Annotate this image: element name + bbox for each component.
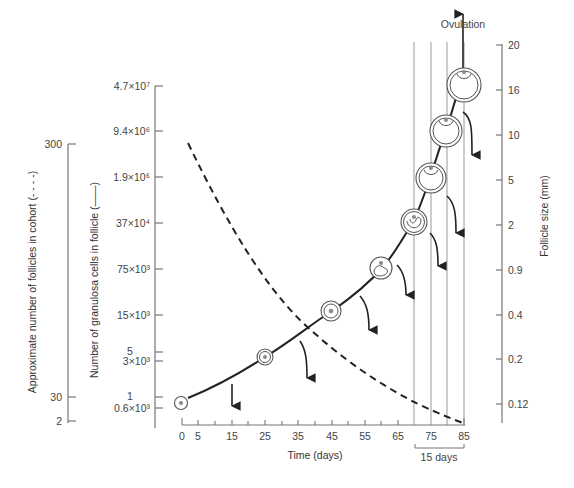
time-tick: 85: [458, 430, 470, 442]
size-tick: 0.2: [508, 353, 523, 365]
early-antral-follicle-icon: [370, 257, 392, 279]
time-tick: 75: [425, 430, 437, 442]
granulosa-tick: 1.9×10⁶: [113, 171, 150, 183]
time-tick: 5: [195, 430, 201, 442]
cohort-tick-30: 30: [50, 391, 62, 403]
granulosa-tick: 9.4×10⁶: [113, 125, 150, 137]
granulosa-tick: 3×10³: [123, 355, 151, 367]
secondary-follicle-icon: [321, 301, 341, 321]
size-tick: 2: [508, 219, 514, 231]
cohort-axis: 300 30 2 Approximate number of follicles…: [26, 138, 76, 427]
time-tick: 35: [292, 430, 304, 442]
time-tick: 0: [179, 430, 185, 442]
time-axis: 0 5 15 25 35 45 55 65 75 85 Time (days) …: [179, 418, 470, 463]
time-tick: 45: [326, 430, 338, 442]
follicles: [175, 68, 482, 410]
time-tick: 15: [226, 430, 238, 442]
atresia-arrow-icon: [300, 341, 307, 378]
atresia-arrow-icon: [397, 265, 406, 295]
granulosa-tick: 4.7×10⁷: [114, 80, 150, 92]
follicle-diagram: 300 30 2 Approximate number of follicles…: [0, 0, 574, 488]
size-tick: 0.9: [508, 264, 523, 276]
preovulatory-follicle-icon: [416, 163, 446, 193]
size-tick: 5: [508, 174, 514, 186]
time-axis-title: Time (days): [287, 449, 342, 461]
time-tick: 25: [259, 430, 271, 442]
cohort-tick-2: 2: [56, 415, 62, 427]
time-tick: 65: [392, 430, 404, 442]
cohort-axis-title: Approximate number of follicles in cohor…: [26, 171, 38, 393]
atresia-arrow-icon: [447, 196, 456, 233]
granulosa-tick: 1: [127, 390, 133, 402]
granulosa-axis-title: Number of granulosa cells in follicle (—…: [88, 182, 100, 378]
ovulation-label: Ovulation: [441, 18, 486, 30]
follicle-size-axis-title: Follicle size (mm): [538, 175, 550, 257]
granulosa-tick: 0.6×10³: [114, 402, 150, 414]
primary-follicle-icon: [257, 349, 273, 365]
granulosa-tick: 37×10⁴: [116, 217, 150, 229]
granulosa-axis: 4.7×10⁷ 9.4×10⁶ 1.9×10⁶ 37×10⁴ 75×10³ 15…: [88, 80, 163, 428]
time-tick: 55: [359, 430, 371, 442]
size-tick: 0.4: [508, 309, 523, 321]
fifteen-day-bracket: [415, 444, 464, 448]
atresia-arrow-icon: [360, 296, 369, 330]
follicle-size-axis: 20 16 10 5 2 0.9 0.4 0.2 0.12 Follicle s…: [496, 39, 550, 423]
fifteen-day-label: 15 days: [421, 451, 458, 463]
granulosa-tick: 15×10³: [117, 309, 150, 321]
size-tick: 0.12: [508, 398, 529, 410]
large-preovulatory-follicle-icon: [430, 115, 462, 147]
size-tick: 10: [508, 129, 520, 141]
granulosa-tick: 75×10³: [117, 263, 150, 275]
primordial-follicle-icon: [175, 397, 188, 410]
cohort-tick-300: 300: [44, 138, 62, 150]
size-tick: 20: [508, 39, 520, 51]
antral-follicle-icon: [401, 209, 427, 235]
size-tick: 16: [508, 84, 520, 96]
graafian-follicle-icon: [447, 68, 481, 102]
